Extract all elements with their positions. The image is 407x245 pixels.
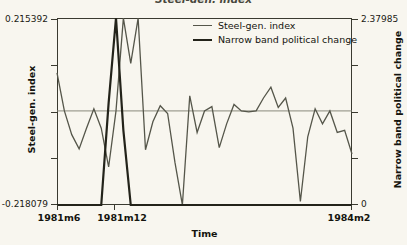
right-axis-min-label: 0 xyxy=(361,199,367,209)
legend-label-narrow-band-political-change: Narrow band political change xyxy=(218,34,357,45)
left-axis-tick-1 xyxy=(51,65,57,66)
right-axis-tick-2 xyxy=(352,112,358,113)
right-axis-max-label: 2.37985 xyxy=(361,14,398,24)
left-axis-title: Steel-gen. index xyxy=(26,50,37,170)
left-axis-min-label: -0.218079 xyxy=(2,199,48,209)
x-axis-tick-1981m6 xyxy=(57,205,58,210)
chart-title: Steel-gen. index xyxy=(0,0,407,3)
series-line-steel-gen-index xyxy=(57,18,352,205)
x-axis-tick-1984m2 xyxy=(351,205,352,210)
right-axis-tick-3 xyxy=(352,158,358,159)
left-axis-tick-0 xyxy=(51,19,57,20)
x-axis-label-1981m6: 1981m6 xyxy=(38,212,81,223)
left-axis-max-label: 0.215392 xyxy=(5,14,48,24)
x-axis-label-1981m12: 1981m12 xyxy=(97,212,147,223)
legend-label-steel-gen-index: Steel-gen. index xyxy=(218,20,295,31)
right-axis-tick-1 xyxy=(352,65,358,66)
chart-screenshot: Steel-gen. index 0.215392 -0.218079 2.37… xyxy=(0,0,407,245)
right-axis-tick-4 xyxy=(352,204,358,205)
legend-swatch-steel-icon xyxy=(193,25,212,26)
chart-legend: Steel-gen. index Narrow band political c… xyxy=(193,20,357,45)
x-axis-title: Time xyxy=(57,228,352,239)
plot-area xyxy=(57,18,352,205)
left-axis-tick-2 xyxy=(51,112,57,113)
x-axis-label-1984m2: 1984m2 xyxy=(328,212,371,223)
right-axis-title: Narrow band political change xyxy=(392,30,403,190)
left-axis-tick-3 xyxy=(51,158,57,159)
legend-swatch-narrow-icon xyxy=(193,39,212,41)
x-axis-tick-1981m12 xyxy=(114,205,115,210)
legend-item-steel-gen-index: Steel-gen. index xyxy=(193,20,357,31)
legend-item-narrow-band-political-change: Narrow band political change xyxy=(193,34,357,45)
